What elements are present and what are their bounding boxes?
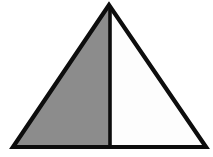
triangle-figure [0,0,213,157]
triangle-diagram-svg [0,0,213,157]
